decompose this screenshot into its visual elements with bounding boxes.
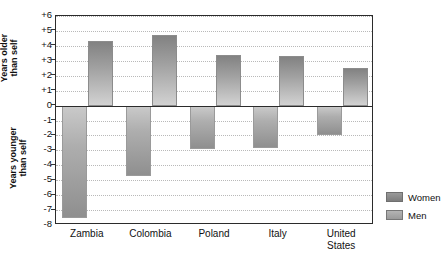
y-tick-label: 0 [2,100,52,110]
y-tick-label: -6 [2,189,52,199]
y-tick-label: +1 [2,85,52,95]
gridline [56,16,372,17]
bar-women-united-states [317,106,342,135]
y-tick-label: -7 [2,204,52,214]
y-tick-label: +6 [2,10,52,20]
x-tick-label: Colombia [119,228,183,240]
bar-men-poland [216,55,241,106]
gridline [56,165,372,166]
bar-women-colombia [126,106,151,176]
bar-women-italy [253,106,278,149]
bar-women-poland [190,106,215,149]
y-tick-label: -3 [2,144,52,154]
y-tick-label: +4 [2,40,52,50]
gridline [56,31,372,32]
bar-men-colombia [152,35,177,105]
legend-label: Women [408,192,441,203]
y-tick-label: -8 [2,219,52,229]
y-tick-label: +3 [2,55,52,65]
x-tick-label: United States [309,228,373,252]
bar-men-italy [279,56,304,106]
gridline [56,210,372,211]
gridline [56,195,372,196]
y-tick-label: +2 [2,70,52,80]
legend-item-men[interactable]: Men [386,207,445,223]
plot-area [55,15,373,224]
legend-swatch-women-icon [386,192,403,202]
legend: WomenMen [386,189,445,225]
y-tick-label: +5 [2,25,52,35]
x-axis-labels: ZambiaColombiaPolandItalyUnited States [55,228,373,262]
legend-item-women[interactable]: Women [386,189,445,205]
bar-men-united-states [343,68,368,105]
bar-chart: Years older than self Years younger than… [0,0,445,264]
y-tick-label: -4 [2,159,52,169]
legend-label: Men [408,210,426,221]
y-tick-label: -2 [2,129,52,139]
bar-women-zambia [62,106,87,218]
y-tick-label: -5 [2,174,52,184]
gridline [56,180,372,181]
gridline [56,150,372,151]
x-tick-label: Poland [182,228,246,240]
legend-swatch-men-icon [386,210,403,220]
x-tick-label: Zambia [55,228,119,240]
y-tick-label: -1 [2,115,52,125]
bar-men-zambia [88,41,113,105]
y-axis-ticks: +6+5+4+3+2+10-1-2-3-4-5-6-7-8 [0,0,52,264]
x-tick-label: Italy [246,228,310,240]
zero-baseline [56,106,372,107]
